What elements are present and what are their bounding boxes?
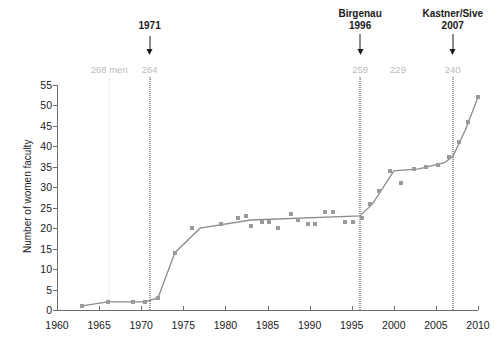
data-point xyxy=(173,251,177,255)
data-point xyxy=(244,214,248,218)
annotation-year: 1996 xyxy=(338,20,381,32)
annotation-year: 2007 xyxy=(422,20,483,32)
x-tick-label: 1985 xyxy=(256,319,279,331)
data-point xyxy=(343,220,347,224)
annotation-arrow-a1996 xyxy=(360,34,361,50)
y-tick-label: 5 xyxy=(26,284,52,296)
x-tick-label: 1980 xyxy=(214,319,237,331)
y-tick xyxy=(53,126,57,127)
count-drop-line xyxy=(109,78,110,310)
series-path xyxy=(82,97,478,306)
data-point xyxy=(447,155,451,159)
event-line-a1996 xyxy=(360,77,361,310)
x-tick-label: 2000 xyxy=(382,319,405,331)
count-label: 264 xyxy=(142,64,158,75)
x-tick-label: 1970 xyxy=(130,319,153,331)
chart-figure: 1971Birgenau1996Kastner/Sive2007 268 men… xyxy=(0,0,495,349)
data-point xyxy=(457,140,461,144)
data-point xyxy=(306,222,310,226)
annotation-name: Birgenau xyxy=(338,8,381,20)
x-tick-label: 1975 xyxy=(172,319,195,331)
annotation-a1996: Birgenau1996 xyxy=(338,8,381,32)
x-tick xyxy=(57,306,58,310)
y-tick-label: 45 xyxy=(26,120,52,132)
y-tick-label: 55 xyxy=(26,79,52,91)
y-tick xyxy=(53,146,57,147)
data-point xyxy=(360,216,364,220)
data-point xyxy=(219,222,223,226)
y-tick xyxy=(53,249,57,250)
data-point xyxy=(412,167,416,171)
data-point xyxy=(436,163,440,167)
data-point xyxy=(351,220,355,224)
x-tick-label: 2010 xyxy=(466,319,489,331)
data-point xyxy=(399,181,403,185)
data-point xyxy=(313,222,317,226)
x-tick-label: 1960 xyxy=(45,319,68,331)
x-tick xyxy=(394,306,395,310)
data-point xyxy=(368,202,372,206)
y-tick xyxy=(53,85,57,86)
annotation-year: 1971 xyxy=(138,20,160,32)
data-point xyxy=(249,224,253,228)
annotation-name: Kastner/Sive xyxy=(422,8,483,20)
data-point xyxy=(388,169,392,173)
x-tick xyxy=(436,306,437,310)
x-tick xyxy=(478,306,479,310)
data-point xyxy=(289,212,293,216)
data-point xyxy=(236,216,240,220)
series-line xyxy=(0,0,495,349)
data-point xyxy=(424,165,428,169)
x-tick xyxy=(225,306,226,310)
x-tick-label: 1965 xyxy=(87,319,110,331)
data-point xyxy=(267,220,271,224)
count-label: 259 xyxy=(352,64,368,75)
y-tick xyxy=(53,187,57,188)
y-tick xyxy=(53,290,57,291)
data-point xyxy=(296,218,300,222)
y-tick xyxy=(53,228,57,229)
x-tick-label: 1995 xyxy=(340,319,363,331)
x-tick xyxy=(99,306,100,310)
data-point xyxy=(466,120,470,124)
x-tick-label: 2005 xyxy=(424,319,447,331)
x-tick xyxy=(352,306,353,310)
x-tick xyxy=(183,306,184,310)
count-label: 268 men xyxy=(91,64,128,75)
data-point xyxy=(190,226,194,230)
x-tick xyxy=(310,306,311,310)
data-point xyxy=(377,189,381,193)
y-tick xyxy=(53,310,57,311)
y-tick-label: 0 xyxy=(26,304,52,316)
data-point xyxy=(476,95,480,99)
y-tick-label: 50 xyxy=(26,99,52,111)
data-point xyxy=(260,220,264,224)
data-point xyxy=(131,300,135,304)
y-tick xyxy=(53,167,57,168)
y-axis-line xyxy=(57,85,58,310)
data-point xyxy=(143,300,147,304)
count-label: 240 xyxy=(445,64,461,75)
x-axis-line xyxy=(57,310,478,311)
x-tick xyxy=(268,306,269,310)
event-line-a2007 xyxy=(452,77,453,310)
y-tick-label: 10 xyxy=(26,263,52,275)
data-point xyxy=(276,226,280,230)
data-point xyxy=(331,210,335,214)
annotation-a1971: 1971 xyxy=(138,20,160,32)
count-label: 229 xyxy=(390,64,406,75)
y-axis-title: Number of women faculty xyxy=(22,139,33,252)
y-tick xyxy=(53,105,57,106)
annotation-arrow-a1971 xyxy=(149,36,150,50)
annotation-arrow-a2007 xyxy=(452,34,453,50)
data-point xyxy=(106,300,110,304)
data-point xyxy=(323,210,327,214)
event-line-a1971 xyxy=(149,77,150,310)
annotation-a2007: Kastner/Sive2007 xyxy=(422,8,483,32)
y-tick xyxy=(53,269,57,270)
data-point xyxy=(80,304,84,308)
y-tick xyxy=(53,208,57,209)
x-tick-label: 1990 xyxy=(298,319,321,331)
x-tick xyxy=(141,306,142,310)
data-point xyxy=(156,296,160,300)
